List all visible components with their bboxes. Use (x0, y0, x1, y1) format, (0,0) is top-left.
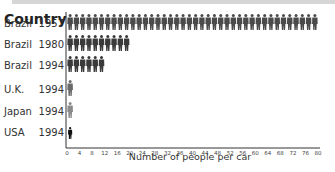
person-icon (287, 14, 293, 30)
x-tick-label: 68 (277, 150, 284, 156)
row-country-label: Brazil (4, 60, 32, 71)
row-year-label: 1980 (39, 39, 64, 50)
person-icon (99, 14, 105, 30)
x-tick-label: 8 (90, 150, 94, 156)
person-icon (86, 56, 92, 72)
person-icon (306, 14, 312, 30)
person-icon (92, 35, 98, 51)
person-icon (293, 14, 299, 30)
person-icon (86, 14, 92, 30)
person-icon (68, 127, 72, 139)
pictogram-row: USA1994 (4, 127, 72, 139)
pictogram-row: Brazil1980 (4, 35, 129, 51)
person-icon (92, 14, 98, 30)
x-tick-label: 0 (65, 150, 69, 156)
row-country-label: U.K. (4, 84, 24, 95)
x-tick-label: 64 (264, 150, 271, 156)
person-icon (118, 14, 124, 30)
person-icon (111, 35, 117, 51)
person-icon (243, 14, 249, 30)
person-icon (143, 14, 149, 30)
pictogram-chart: Country Brazil1957Brazil1980Brazil1994U.… (0, 0, 335, 172)
x-tick-label: 16 (114, 150, 121, 156)
pictogram-row: Japan1994 (3, 102, 73, 118)
person-icon (168, 14, 174, 30)
person-icon (74, 35, 80, 51)
person-icon (118, 35, 124, 51)
x-tick-label: 72 (289, 150, 296, 156)
x-tick-label: 12 (101, 150, 108, 156)
person-icon (230, 14, 236, 30)
person-icon (161, 14, 167, 30)
person-icon (136, 14, 142, 30)
person-icon (92, 56, 98, 72)
person-icon (174, 14, 180, 30)
person-icon (74, 56, 80, 72)
person-icon (105, 14, 111, 30)
person-icon (111, 14, 117, 30)
row-country-label: Brazil (4, 39, 32, 50)
person-icon (80, 35, 86, 51)
person-icon (180, 14, 186, 30)
x-tick-label: 76 (302, 150, 309, 156)
row-country-label: Brazil (4, 18, 32, 29)
person-icon (300, 14, 306, 30)
pictogram-row: U.K.1994 (4, 80, 73, 96)
row-country-label: Japan (3, 106, 32, 117)
row-country-label: USA (4, 127, 25, 138)
x-tick-label: 80 (315, 150, 322, 156)
person-icon (237, 14, 243, 30)
pictogram-row: Brazil1994 (4, 56, 104, 72)
x-tick-label: 4 (78, 150, 82, 156)
person-icon (312, 14, 318, 30)
row-year-label: 1994 (39, 84, 64, 95)
x-axis-label: Number of people per car (129, 151, 251, 162)
person-icon (67, 102, 73, 118)
person-icon (99, 35, 105, 51)
person-icon (218, 14, 224, 30)
person-icon (80, 56, 86, 72)
person-icon (67, 14, 73, 30)
person-icon (80, 14, 86, 30)
person-icon (205, 14, 211, 30)
person-icon (124, 35, 130, 51)
person-icon (105, 35, 111, 51)
row-year-label: 1957 (39, 18, 64, 29)
person-icon (262, 14, 268, 30)
person-icon (67, 56, 73, 72)
row-year-label: 1994 (39, 106, 64, 117)
person-icon (193, 14, 199, 30)
x-tick-label: 60 (252, 150, 259, 156)
person-icon (199, 14, 205, 30)
row-year-label: 1994 (39, 127, 64, 138)
person-icon (274, 14, 280, 30)
person-icon (124, 14, 130, 30)
person-icon (256, 14, 262, 30)
person-icon (187, 14, 193, 30)
person-icon (74, 14, 80, 30)
person-icon (212, 14, 218, 30)
person-icon (281, 14, 287, 30)
person-icon (224, 14, 230, 30)
person-icon (67, 80, 73, 96)
person-icon (130, 14, 136, 30)
person-icon (99, 56, 105, 72)
person-icon (249, 14, 255, 30)
person-icon (67, 35, 73, 51)
person-icon (149, 14, 155, 30)
row-year-label: 1994 (39, 60, 64, 71)
person-icon (86, 35, 92, 51)
person-icon (268, 14, 274, 30)
person-icon (155, 14, 161, 30)
